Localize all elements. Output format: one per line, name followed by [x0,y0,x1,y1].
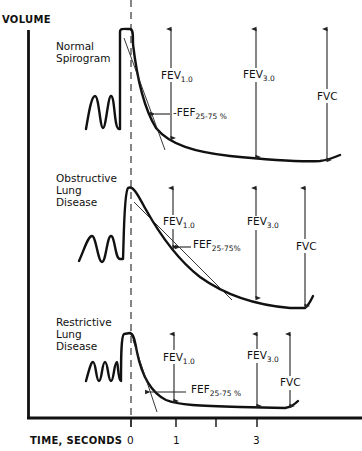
x-axis-label: TIME, SECONDS [30,435,122,446]
panel-obstructive: Obstructive Lung Disease FEV1.0 FEV3.0 F… [56,172,317,308]
panel-normal: Normal Spirogram FEV1.0 FEV3.0 FVC -FEF2… [56,29,340,161]
restrictive-fvc-label: FVC [280,376,301,388]
normal-spirogram-curve [86,29,340,161]
panel-title-line: Disease [56,196,97,208]
panel-restrictive: Restrictive Lung Disease FEV1.0 FEV3.0 F… [56,316,301,412]
panel-title-line: Spirogram [56,52,110,64]
tick-label-0: 0 [127,434,134,446]
spirogram-diagram: VOLUME TIME, SECONDS 0 1 3 Normal Spirog… [0,0,362,451]
obstructive-fvc-label: FVC [296,240,317,252]
x-ticks: 0 1 3 [127,418,260,446]
panel-title-line: Lung [56,328,82,340]
panel-title-line: Disease [56,340,97,352]
panel-title-line: Restrictive [56,316,112,328]
tick-label-1: 1 [173,434,180,446]
restrictive-fef-tangent [133,340,157,412]
tick-label-3: 3 [253,434,260,446]
panel-title-line: Lung [56,184,82,196]
y-axis-label: VOLUME [2,14,51,25]
normal-fvc-label: FVC [317,90,338,102]
normal-fef-tangent [124,38,165,150]
panel-title-line: Normal [56,40,94,52]
panel-title-line: Obstructive [56,172,117,184]
